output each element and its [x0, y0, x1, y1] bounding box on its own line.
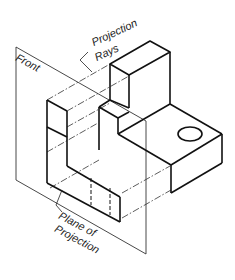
projection-diagram — [0, 0, 235, 280]
projection-rays — [47, 64, 171, 218]
hidden-lines — [91, 178, 110, 215]
leader-lines — [56, 52, 92, 212]
isometric-object — [47, 41, 222, 222]
